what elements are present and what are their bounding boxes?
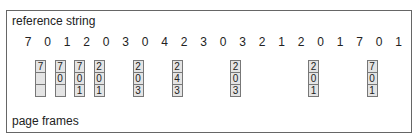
frame-column: 201: [308, 60, 319, 96]
frame-column: 701: [367, 60, 378, 96]
reference-item: 1: [60, 35, 74, 49]
frame-cell: 1: [308, 84, 319, 97]
reference-item: 3: [197, 35, 211, 49]
frame-cell: 1: [94, 84, 105, 97]
reference-item: 0: [372, 35, 386, 49]
frame-cell: 3: [133, 84, 144, 97]
reference-item: 1: [392, 35, 406, 49]
frame-column: 203: [133, 60, 144, 96]
reference-item: 1: [275, 35, 289, 49]
frame-column: 7: [35, 60, 46, 96]
reference-item: 2: [80, 35, 94, 49]
frame-column: 243: [172, 60, 183, 96]
frame-cell: 3: [230, 84, 241, 97]
reference-item: 2: [177, 35, 191, 49]
reference-item: 0: [216, 35, 230, 49]
reference-item: 0: [41, 35, 55, 49]
reference-item: 2: [255, 35, 269, 49]
reference-item: 1: [333, 35, 347, 49]
reference-item: 3: [236, 35, 250, 49]
frame-column: 701: [74, 60, 85, 96]
reference-item: 0: [314, 35, 328, 49]
reference-item: 0: [99, 35, 113, 49]
frame-cell: [55, 84, 66, 97]
page-frames-label: page frames: [12, 114, 79, 128]
frame-cell: 3: [172, 84, 183, 97]
reference-item: 2: [294, 35, 308, 49]
frame-cell: 1: [74, 84, 85, 97]
frame-column: 203: [230, 60, 241, 96]
frame-column: 70: [55, 60, 66, 96]
reference-item: 7: [353, 35, 367, 49]
frame-cell: 1: [367, 84, 378, 97]
frame-column: 201: [94, 60, 105, 96]
reference-item: 4: [158, 35, 172, 49]
frame-cell: [35, 84, 46, 97]
reference-item: 3: [119, 35, 133, 49]
reference-item: 7: [21, 35, 35, 49]
reference-string-label: reference string: [12, 14, 95, 28]
reference-item: 0: [138, 35, 152, 49]
